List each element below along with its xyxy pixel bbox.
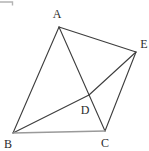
edges-group	[13, 27, 136, 133]
edge-BC	[13, 131, 105, 133]
point-label-E: E	[140, 37, 147, 51]
edge-DE	[89, 52, 136, 95]
edge-BD	[13, 95, 89, 133]
geometry-figure: ABCDE	[0, 0, 149, 151]
point-label-A: A	[53, 7, 62, 21]
edge-AB	[13, 27, 59, 133]
edge-EC	[105, 52, 136, 131]
geometry-diagram-canvas: ABCDE	[0, 0, 149, 151]
labels-group: ABCDE	[4, 7, 148, 151]
point-label-D: D	[81, 103, 90, 117]
point-label-B: B	[4, 137, 12, 151]
edge-AE	[59, 27, 136, 52]
point-label-C: C	[101, 136, 109, 150]
table-border-artifact	[0, 2, 13, 6]
